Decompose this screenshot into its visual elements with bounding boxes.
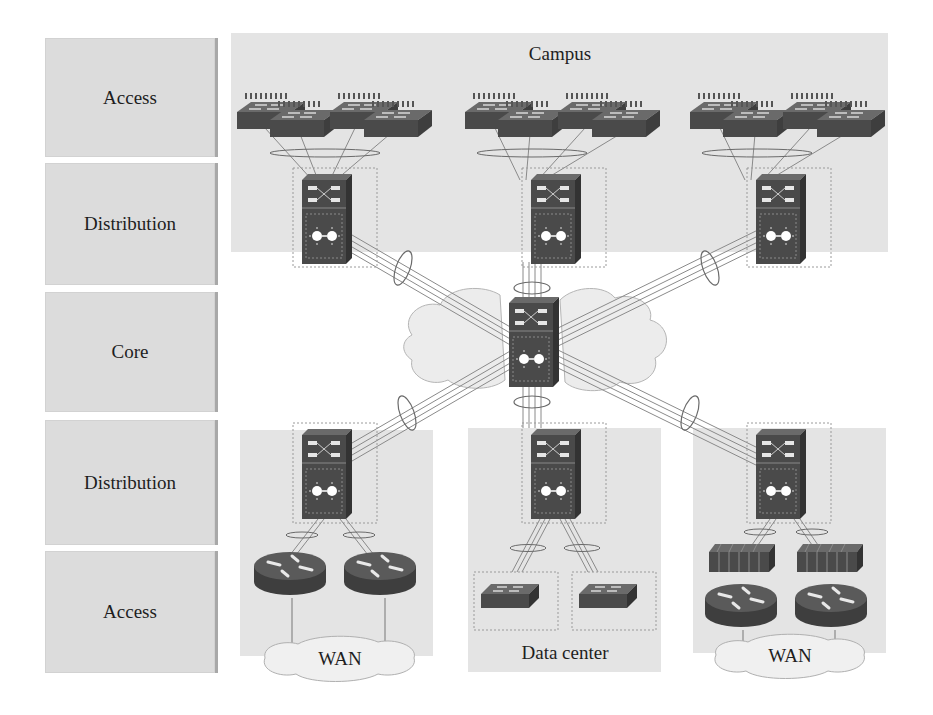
distribution-switch-icon <box>531 174 581 264</box>
wan-right-label: WAN <box>740 645 840 667</box>
data-center-switch-icon <box>481 584 539 608</box>
campus-group-middle <box>465 93 660 267</box>
data-center-label: Data center <box>480 642 650 664</box>
core-cloud-left <box>404 288 505 388</box>
router-icon <box>705 584 777 627</box>
router-icon <box>254 552 326 595</box>
wan-left-group <box>254 423 416 682</box>
distribution-switch-icon <box>302 174 352 264</box>
data-center-group <box>474 423 656 630</box>
distribution-switch-icon <box>756 174 806 264</box>
campus-label: Campus <box>500 43 620 65</box>
distribution-switch-icon <box>302 429 352 519</box>
campus-group-right <box>690 93 885 267</box>
campus-group-left <box>237 93 432 267</box>
router-icon <box>795 584 867 627</box>
distribution-switch-icon <box>531 429 581 519</box>
distribution-switch-icon <box>756 429 806 519</box>
wan-left-label: WAN <box>290 648 390 670</box>
network-diagram <box>0 0 933 715</box>
firewall-icon <box>797 544 863 572</box>
data-center-switch-icon <box>579 584 637 608</box>
router-icon <box>344 552 416 595</box>
wan-right-group <box>705 423 867 679</box>
core-switch-icon <box>509 297 559 387</box>
core-cloud-right <box>560 288 666 390</box>
firewall-icon <box>709 544 775 572</box>
